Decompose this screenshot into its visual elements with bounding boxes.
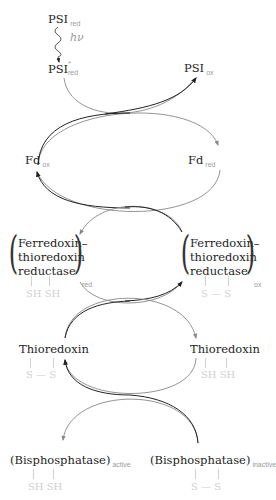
bond-line bbox=[226, 358, 227, 368]
ftr-reduction-arrow bbox=[80, 206, 182, 234]
bond-line bbox=[30, 358, 31, 368]
thioredoxin-red-label: Thioredoxin bbox=[190, 344, 260, 356]
bisphosphatase-active-label: (Bisphosphatase)active bbox=[10, 455, 131, 468]
bond-line bbox=[205, 358, 206, 368]
psi-superscript: * bbox=[68, 60, 71, 67]
fd-ox-label: Fdox bbox=[25, 155, 50, 168]
disulfide-group: S — S bbox=[191, 481, 221, 492]
left-paren: ( bbox=[181, 231, 190, 275]
psi-name: PSI bbox=[48, 12, 68, 26]
fd-subscript: red bbox=[205, 161, 215, 168]
ftr-ox-block: ( Ferredoxin– thioredoxin reductase ) ox bbox=[180, 236, 270, 286]
thioredoxin-reduction-arrow bbox=[65, 298, 196, 338]
thiol-group: SH SH bbox=[201, 369, 235, 380]
disulfide-group: S — S bbox=[26, 369, 56, 380]
bond-line bbox=[228, 276, 229, 286]
right-paren: ) bbox=[246, 231, 255, 275]
bond-line bbox=[205, 276, 206, 286]
thiol-group: SH SH bbox=[26, 288, 60, 299]
thioredoxin-ox-label: Thioredoxin bbox=[19, 344, 89, 356]
fd-name: Fd bbox=[188, 153, 203, 167]
psi-subscript: ox bbox=[206, 69, 213, 76]
disulfide-group: S — S bbox=[201, 288, 231, 299]
bond-line bbox=[218, 469, 219, 479]
bond-line bbox=[49, 276, 50, 286]
thiol-group: SH SH bbox=[28, 481, 62, 492]
fd-red-label: Fdred bbox=[188, 155, 215, 168]
fd-subscript: ox bbox=[42, 161, 49, 168]
psi-subscript: red bbox=[70, 20, 80, 27]
psi-excited-label: PSI*red bbox=[48, 64, 81, 76]
bisphosphatase-inactive-label: (Bisphosphatase)inactive bbox=[150, 455, 276, 468]
bisphosphatase-name: (Bisphosphatase) bbox=[150, 453, 250, 467]
psi-ox-label: PSIox bbox=[184, 63, 214, 76]
psi-name: PSI bbox=[48, 62, 68, 76]
ftr-subscript: red bbox=[82, 278, 92, 292]
bisphosphatase-name: (Bisphosphatase) bbox=[10, 453, 110, 467]
bisphosphatase-subscript: active bbox=[112, 461, 130, 468]
thioredoxin-oxidation-arrow bbox=[65, 358, 196, 394]
bond-line bbox=[31, 276, 32, 286]
bond-line bbox=[53, 358, 54, 368]
psi-name: PSI bbox=[184, 61, 204, 75]
psi-subscript: red bbox=[68, 69, 78, 76]
bisphosphatase-subscript: inactive bbox=[252, 461, 276, 468]
fd-name: Fd bbox=[25, 153, 40, 167]
light-excitation-arrow bbox=[55, 27, 61, 62]
ftr-red-block: ( Ferredoxin– thioredoxin reductase ) re… bbox=[8, 236, 88, 286]
bond-line bbox=[33, 469, 34, 479]
ftr-subscript: ox bbox=[254, 278, 261, 292]
left-paren: ( bbox=[9, 231, 18, 275]
bond-line bbox=[53, 469, 54, 479]
psi-red-label: PSIred bbox=[48, 14, 80, 27]
fd-oxidation-arrow bbox=[37, 170, 220, 212]
right-paren: ) bbox=[74, 231, 83, 275]
light-hv-label: hν bbox=[70, 31, 84, 44]
bond-line bbox=[195, 469, 196, 479]
bisphosphatase-activation-arrow bbox=[63, 399, 198, 443]
